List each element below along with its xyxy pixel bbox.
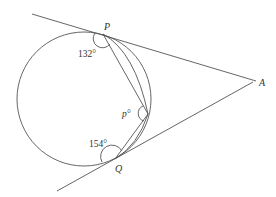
angle-label-154: 154° (89, 139, 107, 149)
label-P: P (103, 21, 110, 32)
tangent-line-Q (57, 82, 253, 191)
diagram-canvas: P Q A 132° p° 154° (0, 0, 276, 197)
angle-label-132: 132° (78, 49, 96, 59)
angle-arc-R (138, 106, 144, 121)
geometry-figure: P Q A 132° p° 154° (0, 0, 276, 197)
label-Q: Q (115, 163, 123, 174)
label-A: A (258, 77, 266, 88)
tangent-line-P (32, 14, 256, 81)
angle-label-p: p° (121, 109, 131, 119)
